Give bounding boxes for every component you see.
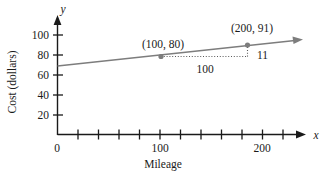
- graph-figure: 100 80 60 40 20 0 100 200 y x Mileage Co…: [0, 0, 326, 175]
- data-point-label-b: (200, 91): [231, 22, 273, 35]
- data-point-marker-100-80: [158, 54, 163, 59]
- trend-line-arrowhead: [293, 37, 304, 45]
- y-tick-label: 80: [38, 49, 50, 61]
- y-tick-label: 20: [38, 109, 50, 121]
- data-point-marker-200-91: [245, 42, 250, 47]
- x-axis-name: x: [312, 129, 319, 141]
- x-axis-title: Mileage: [144, 158, 182, 171]
- cost-vs-mileage-chart: 100 80 60 40 20 0 100 200 y x Mileage Co…: [0, 0, 326, 175]
- x-axis-arrowhead: [296, 131, 306, 139]
- run-annotation-label: 100: [196, 63, 214, 75]
- y-tick-label: 100: [32, 29, 50, 41]
- origin-label: 0: [54, 142, 60, 154]
- y-axis-tick-labels: 100 80 60 40 20: [32, 29, 50, 121]
- y-tick-label: 60: [38, 69, 50, 81]
- x-tick-label-100: 100: [151, 142, 169, 154]
- y-axis-title: Cost (dollars): [6, 50, 19, 113]
- rise-annotation-label: 11: [257, 49, 268, 61]
- y-axis-arrowhead: [54, 15, 62, 25]
- data-point-label-a: (100, 80): [142, 38, 184, 51]
- y-axis-name: y: [59, 3, 66, 16]
- x-tick-label-200: 200: [253, 142, 271, 154]
- y-tick-label: 40: [38, 89, 50, 101]
- x-axis: [58, 131, 307, 139]
